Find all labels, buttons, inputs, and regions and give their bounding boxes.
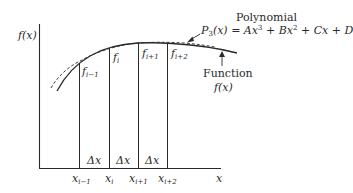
x-axis-label: x [216,173,222,184]
f-subscript: i [117,57,119,65]
f-label-i: fi [113,52,119,65]
eq-part-2: + Bx [263,24,294,37]
x-subscript: i+2 [164,178,177,186]
x-label-i: xi [105,173,113,186]
delta-x-label-1: Δx [87,155,101,166]
f-label-i-plus-2: fi+2 [171,48,188,61]
f-subscript: i+1 [146,53,159,61]
x-subscript: i [111,178,113,186]
y-axis-label: f(x) [18,30,37,41]
function-title: Function [203,68,253,79]
eq-part-3: + Cx + D [297,24,353,37]
delta-x-label-2: Δx [116,155,130,166]
x-label-i-plus-1: xi+1 [129,173,148,186]
polynomial-equation: P3(x) = Ax3 + Bx2 + Cx + D [201,25,353,38]
f-subscript: i−1 [86,71,99,79]
polynomial-arrowhead [187,37,194,43]
delta-x-label-3: Δx [145,155,159,166]
function-arrowhead [219,51,225,57]
f-label-i-minus-1: fi−1 [82,66,99,79]
x-label-i-plus-2: xi+2 [158,173,177,186]
x-subscript: i−1 [78,178,91,186]
polynomial-curve [51,42,215,88]
x-subscript: i+1 [135,178,148,186]
f-label-i-plus-1: fi+1 [142,48,159,61]
x-label-i-minus-1: xi−1 [72,173,91,186]
function-label: f(x) [214,82,233,93]
polynomial-title: Polynomial [236,12,297,23]
f-subscript: i+2 [175,53,188,61]
eq-part-1: (x) = Ax [213,24,258,37]
